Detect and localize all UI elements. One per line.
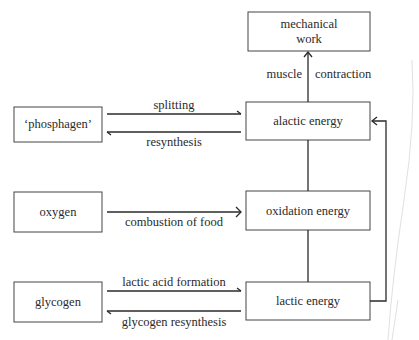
edge-label-contraction: contraction bbox=[315, 67, 372, 81]
page-edge-line bbox=[392, 300, 398, 340]
node-oxidation-energy-label: oxidation energy bbox=[266, 204, 351, 218]
node-lactic-energy-label: lactic energy bbox=[276, 294, 341, 308]
page-edge-line bbox=[388, 60, 413, 340]
node-phosphagen-label: ‘phosphagen’ bbox=[24, 117, 92, 131]
edge-label-muscle: muscle bbox=[267, 67, 303, 81]
energy-diagram: mechanical work ‘phosphagen’ alactic ene… bbox=[0, 0, 419, 340]
node-alactic-energy-label: alactic energy bbox=[273, 114, 343, 128]
edge-label-glycogen-resynthesis: glycogen resynthesis bbox=[122, 315, 227, 329]
edge-lactic-to-alactic-feedback bbox=[370, 121, 386, 301]
edge-label-combustion: combustion of food bbox=[125, 215, 224, 229]
node-mechanical-work-label-1: mechanical bbox=[281, 17, 338, 31]
node-mechanical-work-label-2: work bbox=[296, 32, 322, 46]
edge-label-splitting: splitting bbox=[154, 98, 196, 112]
edge-label-resynthesis: resynthesis bbox=[146, 135, 202, 149]
edge-label-lactic-acid-formation: lactic acid formation bbox=[122, 275, 226, 289]
node-oxygen-label: oxygen bbox=[40, 205, 78, 219]
node-glycogen-label: glycogen bbox=[35, 295, 82, 309]
